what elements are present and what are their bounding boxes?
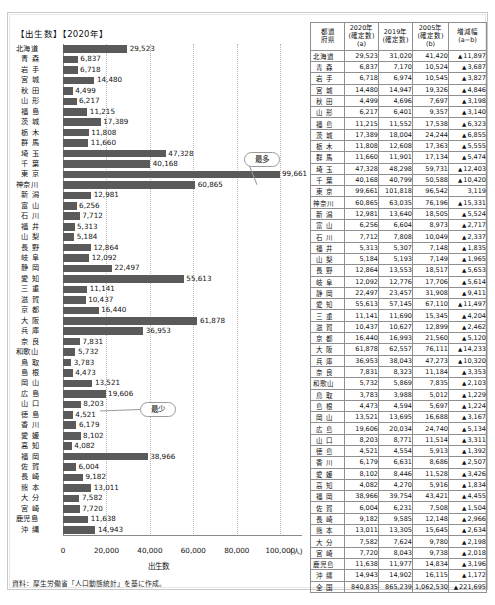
- table-cell-prefecture: 香川: [311, 457, 345, 468]
- table-cell-difference: ▲3,353: [449, 366, 487, 377]
- decrease-triangle-icon: ▲: [462, 505, 466, 511]
- table-cell-2005: 47,273: [413, 355, 449, 366]
- table-cell-2005: 15,645: [413, 525, 449, 536]
- decrease-triangle-icon: ▲: [462, 109, 466, 115]
- chart-bar-row: 福井5,313: [12, 222, 304, 232]
- table-cell-2019: 7,808: [379, 231, 413, 242]
- table-cell-prefecture: 愛知: [311, 299, 345, 310]
- table-cell-difference: ▲5,134: [449, 423, 487, 434]
- x-tick-label: 80,000: [224, 546, 249, 555]
- table-cell-prefecture: 群馬: [311, 152, 345, 163]
- chart-bar-row: 熊本13,011: [12, 483, 304, 493]
- table-cell-2019: 23,457: [379, 287, 413, 298]
- table-cell-difference: ▲6,323: [449, 118, 487, 129]
- chart-value-label: 14,943: [98, 525, 123, 535]
- table-cell-difference: ▲1,834: [449, 479, 487, 490]
- table-cell-2019: 31,020: [379, 50, 413, 61]
- chart-category-label: 鹿児島: [12, 514, 60, 524]
- chart-bar-row: 滋賀10,437: [12, 295, 304, 305]
- chart-bar: [63, 98, 77, 106]
- chart-bar-row: 石川7,712: [12, 211, 304, 221]
- chart-value-label: 60,865: [198, 180, 223, 190]
- decrease-triangle-icon: ▲: [462, 64, 466, 70]
- table-row: 静岡22,49723,45731,908▲9,411: [311, 287, 487, 298]
- table-cell-2005: 14,834: [413, 558, 449, 569]
- chart-bar-row: 愛知55,613: [12, 274, 304, 284]
- source-note: 資料：厚生労働省「人口動態統計」を基に作成。: [12, 578, 166, 588]
- chart-bar: [63, 265, 112, 273]
- chart-value-label: 6,217: [79, 96, 100, 106]
- table-cell-2020: 29,523: [345, 50, 379, 61]
- chart-category-label: 徳島: [12, 410, 60, 420]
- chart-category-label: 奈良: [12, 337, 60, 347]
- table-cell-difference: ▲2,462: [449, 321, 487, 332]
- table-cell-prefecture: 滋賀: [311, 321, 345, 332]
- table-cell-difference: ▲3,827: [449, 73, 487, 84]
- chart-bar: [63, 275, 184, 283]
- decrease-triangle-icon: ▲: [458, 177, 462, 183]
- table-cell-2019: 8,771: [379, 434, 413, 445]
- table-row: 鹿児島11,63811,97714,834▲3,196: [311, 558, 487, 569]
- table-cell-2019: 63,035: [379, 197, 413, 208]
- table-cell-2020: 11,638: [345, 558, 379, 569]
- x-axis-line: [63, 535, 302, 536]
- chart-bar-row: 神奈川60,865: [12, 180, 304, 190]
- table-cell-difference: ▲1,224: [449, 400, 487, 411]
- chart-category-label: 群馬: [12, 138, 60, 148]
- table-cell-2019: 5,869: [379, 378, 413, 389]
- table-cell-difference: ▲1,835: [449, 242, 487, 253]
- table-cell-difference: ▲1,229: [449, 389, 487, 400]
- chart-bar: [63, 254, 89, 262]
- table-cell-2005: 8,686: [413, 457, 449, 468]
- table-cell-2019: 6,631: [379, 457, 413, 468]
- chart-bar-row: 鹿児島11,638: [12, 514, 304, 524]
- chart-category-label: 栃木: [12, 128, 60, 138]
- chart-category-label: 島根: [12, 368, 60, 378]
- chart-category-label: 石川: [12, 211, 60, 221]
- table-cell-2020: 22,497: [345, 287, 379, 298]
- chart-category-label: 埼玉: [12, 149, 60, 159]
- chart-category-label: 宮崎: [12, 504, 60, 514]
- chart-bar-row: 青森6,837: [12, 54, 304, 64]
- table-cell-2020: 6,256: [345, 220, 379, 231]
- chart-annotation-callout: 最少: [140, 402, 176, 417]
- table-cell-2020: 6,179: [345, 457, 379, 468]
- table-cell-2020: 99,661: [345, 186, 379, 197]
- chart-bar-row: 群馬11,660: [12, 138, 304, 148]
- decrease-triangle-icon: ▲: [458, 200, 462, 206]
- chart-bar: [63, 474, 83, 482]
- chart-value-label: 40,168: [153, 159, 178, 169]
- table-row: 岩手6,7186,97410,545▲3,827: [311, 73, 487, 84]
- chart-value-label: 6,837: [80, 54, 101, 64]
- chart-category-label: 愛知: [12, 274, 60, 284]
- x-axis-unit-label: (人): [290, 546, 303, 556]
- table-cell-2020: 6,837: [345, 61, 379, 72]
- chart-annotation-callout: 最多: [244, 152, 280, 167]
- chart-category-label: 高知: [12, 441, 60, 451]
- table-row: 高知4,0824,2705,916▲1,834: [311, 479, 487, 490]
- chart-value-label: 36,953: [146, 326, 171, 336]
- chart-value-label: 4,521: [75, 410, 96, 420]
- table-cell-2019: 11,977: [379, 558, 413, 569]
- chart-value-label: 13,521: [95, 378, 120, 388]
- chart-bar: [63, 401, 81, 409]
- chart-bar-row: 宮城14,480: [12, 75, 304, 85]
- chart-bar: [63, 296, 86, 304]
- table-cell-difference: ▲5,474: [449, 152, 487, 163]
- chart-value-label: 61,878: [200, 316, 225, 326]
- table-row: 北海道29,52331,02041,420▲11,897: [311, 50, 487, 61]
- chart-bar: [63, 348, 75, 356]
- chart-bar: [63, 56, 78, 64]
- table-cell-prefecture: 福岡: [311, 491, 345, 502]
- table-cell-2020: 5,313: [345, 242, 379, 253]
- chart-bar: [63, 45, 127, 53]
- table-cell-difference: ▲12,403: [449, 163, 487, 174]
- decrease-triangle-icon: ▲: [462, 335, 466, 341]
- table-cell-difference: ▲3,311: [449, 434, 487, 445]
- table-cell-2005: 8,973: [413, 220, 449, 231]
- chart-category-label: 千葉: [12, 159, 60, 169]
- chart-value-label: 19,606: [108, 389, 133, 399]
- table-cell-2019: 4,594: [379, 400, 413, 411]
- table-cell-2020: 36,953: [345, 355, 379, 366]
- table-cell-prefecture: 東京: [311, 186, 345, 197]
